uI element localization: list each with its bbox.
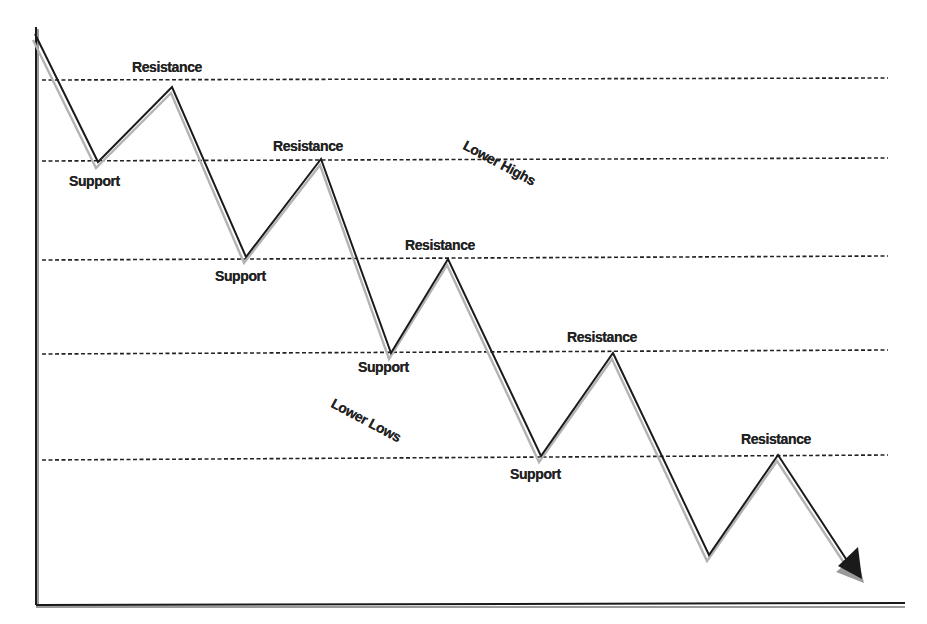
- x-axis: [36, 603, 905, 605]
- support-label-3: Support: [358, 359, 409, 375]
- price-levels: [42, 78, 888, 460]
- level-line-5: [42, 455, 888, 460]
- level-line-2: [42, 158, 888, 161]
- level-line-3: [42, 256, 888, 260]
- diagram-canvas: [0, 0, 927, 624]
- resistance-label-2: Resistance: [273, 138, 343, 154]
- level-line-4: [42, 350, 888, 354]
- price-path-shadow: [33, 40, 850, 572]
- price-path: [33, 34, 864, 583]
- resistance-label-3: Resistance: [405, 237, 475, 253]
- support-label-1: Support: [69, 173, 120, 189]
- price-path-line: [35, 34, 850, 565]
- support-label-4: Support: [510, 466, 561, 482]
- support-label-2: Support: [215, 268, 266, 284]
- level-line-1: [42, 78, 888, 80]
- resistance-label-1: Resistance: [132, 59, 202, 75]
- resistance-label-4: Resistance: [567, 329, 637, 345]
- resistance-label-5: Resistance: [741, 431, 811, 447]
